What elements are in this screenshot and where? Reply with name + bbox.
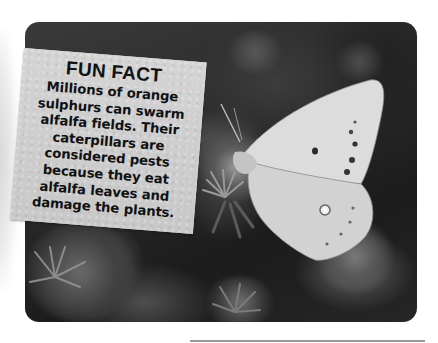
fun-fact-card: FUN FACT Millions of orange sulphurs can…	[10, 48, 206, 234]
horizontal-rule	[190, 340, 425, 342]
